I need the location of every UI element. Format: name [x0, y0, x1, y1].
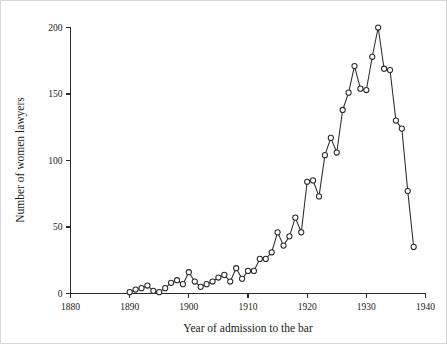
- data-point-1905: [216, 275, 221, 280]
- data-point-1904: [210, 279, 215, 284]
- data-point-1899: [180, 282, 185, 287]
- tick-labels: 0501001502001880189019001910192019301940: [48, 23, 435, 312]
- x-tick-label-1910: 1910: [239, 302, 258, 312]
- data-point-1921: [310, 178, 315, 183]
- data-point-1896: [163, 286, 168, 291]
- data-point-1925: [334, 150, 339, 155]
- data-point-1891: [133, 287, 138, 292]
- data-point-1892: [139, 286, 144, 291]
- data-point-1902: [198, 284, 203, 289]
- data-point-1930: [364, 87, 369, 92]
- data-point-1893: [145, 283, 150, 288]
- y-tick-label-150: 150: [48, 89, 63, 99]
- data-point-1929: [358, 86, 363, 91]
- x-tick-label-1940: 1940: [416, 302, 435, 312]
- data-point-1912: [257, 256, 262, 261]
- data-point-1910: [245, 268, 250, 273]
- data-point-1920: [305, 179, 310, 184]
- x-tick-label-1900: 1900: [179, 302, 198, 312]
- data-point-1915: [275, 230, 280, 235]
- data-point-1937: [405, 188, 410, 193]
- data-point-markers: [127, 25, 416, 295]
- data-point-1914: [269, 250, 274, 255]
- data-point-1935: [393, 118, 398, 123]
- data-point-1927: [346, 90, 351, 95]
- data-point-1895: [157, 290, 162, 295]
- data-point-1918: [293, 215, 298, 220]
- y-tick-label-200: 200: [48, 23, 63, 33]
- data-point-1903: [204, 282, 209, 287]
- data-point-1936: [399, 126, 404, 131]
- axis-spines: [71, 28, 426, 294]
- x-tick-label-1880: 1880: [61, 302, 80, 312]
- y-tick-label-0: 0: [58, 289, 63, 299]
- chart-figure: 0501001502001880189019001910192019301940…: [0, 0, 447, 344]
- data-point-1919: [299, 230, 304, 235]
- x-axis-title: Year of admission to the bar: [183, 322, 313, 334]
- line-chart: 0501001502001880189019001910192019301940…: [0, 0, 447, 344]
- axes: [71, 28, 426, 294]
- data-point-1933: [381, 66, 386, 71]
- data-point-1923: [322, 153, 327, 158]
- data-point-1928: [352, 63, 357, 68]
- data-point-1911: [251, 268, 256, 273]
- data-point-1931: [370, 54, 375, 59]
- data-point-1934: [387, 67, 392, 72]
- data-point-1900: [186, 270, 191, 275]
- data-point-1906: [222, 272, 227, 277]
- data-point-1917: [287, 234, 292, 239]
- data-point-1916: [281, 243, 286, 248]
- data-point-1932: [376, 25, 381, 30]
- data-point-1907: [228, 279, 233, 284]
- x-tick-label-1920: 1920: [298, 302, 317, 312]
- data-point-1909: [239, 276, 244, 281]
- data-point-1894: [151, 288, 156, 293]
- y-tick-label-50: 50: [53, 222, 63, 232]
- data-point-1926: [340, 107, 345, 112]
- data-point-1901: [192, 279, 197, 284]
- y-axis-title: Number of women lawyers: [14, 97, 27, 223]
- data-point-1938: [411, 244, 416, 249]
- x-tick-label-1930: 1930: [357, 302, 376, 312]
- tick-marks: [66, 28, 426, 299]
- data-point-1924: [328, 135, 333, 140]
- data-point-1922: [316, 194, 321, 199]
- x-tick-label-1890: 1890: [120, 302, 139, 312]
- data-point-1898: [174, 278, 179, 283]
- y-tick-label-100: 100: [48, 156, 63, 166]
- data-point-1913: [263, 256, 268, 261]
- data-point-1890: [127, 290, 132, 295]
- data-point-1908: [234, 266, 239, 271]
- data-point-1897: [168, 280, 173, 285]
